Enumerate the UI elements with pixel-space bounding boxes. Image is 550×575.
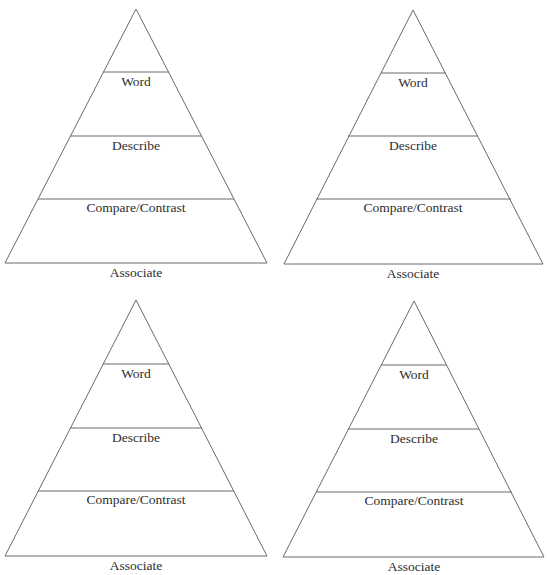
label-word: Word [121, 74, 151, 89]
label-compare-contrast: Compare/Contrast [87, 492, 186, 507]
pyramid-top-right: Word Describe Compare/Contrast Associate [284, 10, 543, 281]
label-associate: Associate [387, 266, 439, 281]
label-word: Word [398, 75, 428, 90]
pyramid-bottom-right: Word Describe Compare/Contrast Associate [283, 301, 544, 574]
pyramid-top-left: Word Describe Compare/Contrast Associate [5, 9, 267, 280]
label-word: Word [121, 366, 151, 381]
vocabulary-pyramids-worksheet: Word Describe Compare/Contrast Associate… [0, 0, 550, 575]
label-describe: Describe [112, 430, 160, 445]
label-compare-contrast: Compare/Contrast [365, 493, 464, 508]
label-describe: Describe [112, 138, 160, 153]
label-describe: Describe [389, 138, 437, 153]
label-word: Word [399, 367, 429, 382]
label-associate: Associate [110, 265, 162, 280]
label-associate: Associate [388, 559, 440, 574]
label-compare-contrast: Compare/Contrast [364, 200, 463, 215]
label-compare-contrast: Compare/Contrast [87, 200, 186, 215]
label-associate: Associate [110, 558, 162, 573]
pyramid-bottom-left: Word Describe Compare/Contrast Associate [5, 300, 267, 573]
label-describe: Describe [390, 431, 438, 446]
pyramid-outline [284, 10, 543, 264]
